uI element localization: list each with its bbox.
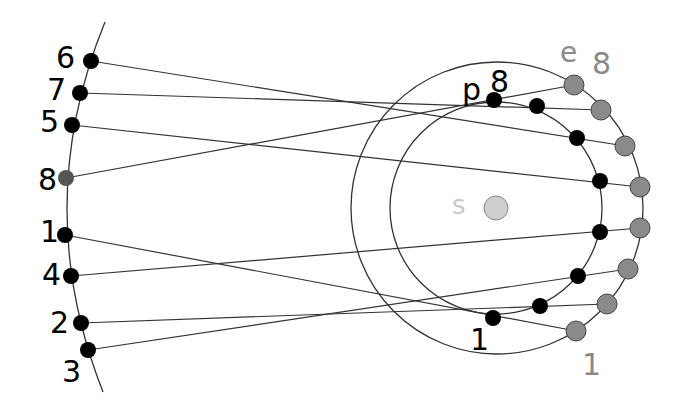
position-dots (57, 53, 650, 358)
earth-start-label: 1 (582, 347, 601, 382)
apparent-position-label: 7 (47, 72, 66, 107)
apparent-position-label: 5 (40, 104, 59, 139)
earth-position-7 (591, 100, 611, 120)
retrograde-motion-diagram: s p 8 e 8 1 1 67581423 (0, 0, 678, 408)
apparent-position-2 (73, 315, 89, 331)
earth-position-6 (615, 136, 635, 156)
apparent-position-label: 3 (62, 354, 81, 389)
apparent-position-label: 4 (42, 257, 61, 292)
apparent-position-8 (58, 170, 74, 186)
sightline-6 (91, 61, 625, 146)
apparent-position-4 (63, 268, 79, 284)
labels: s p 8 e 8 1 1 67581423 (38, 36, 611, 389)
earth-position-4 (630, 218, 650, 238)
sightline-7 (80, 93, 601, 110)
sun (484, 196, 508, 220)
apparent-position-1 (57, 227, 73, 243)
apparent-position-6 (83, 53, 99, 69)
planet-position-5 (592, 173, 608, 189)
earth-position-3 (618, 259, 638, 279)
planet-position-2 (532, 298, 548, 314)
planet-position-6 (569, 130, 585, 146)
planet-position-3 (570, 268, 586, 284)
apparent-position-label: 6 (56, 40, 75, 75)
apparent-position-7 (72, 85, 88, 101)
earth-position-1 (566, 321, 586, 341)
sightlines (65, 61, 640, 350)
apparent-position-3 (80, 342, 96, 358)
earth-index-label: 8 (592, 46, 611, 81)
sun-dot (484, 196, 508, 220)
apparent-position-5 (64, 117, 80, 133)
sun-label: s (452, 190, 466, 220)
earth-position-2 (597, 294, 617, 314)
sightline-2 (81, 304, 607, 323)
planet-position-7 (529, 98, 545, 114)
celestial-arc (67, 22, 105, 392)
diagram-canvas: s p 8 e 8 1 1 67581423 (0, 0, 678, 408)
apparent-position-label: 8 (38, 162, 57, 197)
celestial-sphere-arc (67, 22, 105, 392)
apparent-position-label: 1 (40, 214, 59, 249)
earth-marker-label: e (560, 36, 577, 69)
apparent-position-label: 2 (50, 305, 69, 340)
earth-position-5 (630, 177, 650, 197)
planet-marker-label: p (462, 72, 481, 107)
earth-position-8 (564, 75, 584, 95)
planet-position-4 (592, 224, 608, 240)
planet-start-label: 1 (470, 322, 489, 357)
planet-index-label: 8 (490, 64, 509, 99)
